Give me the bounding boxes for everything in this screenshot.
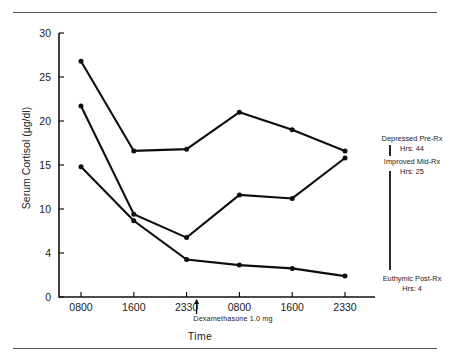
y-tick-label: 20 (39, 115, 51, 127)
data-point-marker (131, 218, 136, 223)
legend-label-improved-mid-rx: Improved Mid-Rx (384, 157, 440, 166)
y-axis-ticks: 302520151040 (39, 27, 64, 303)
data-point-marker (343, 155, 348, 160)
x-tick-label: 0800 (228, 301, 252, 313)
data-point-marker (131, 148, 136, 153)
series-line-0 (81, 61, 345, 151)
legend-entry-improved-mid-rx: Improved Mid-Rx Hrs: 25 (366, 157, 458, 177)
data-point-marker (343, 148, 348, 153)
legend-hrs-euthymic-post-rx: Hrs: 4 (366, 284, 458, 294)
legend-label-depressed-pre-rx: Depressed Pre-Rx (382, 134, 443, 143)
legend-hrs-depressed-pre-rx: Hrs: 44 (366, 144, 458, 154)
data-point-marker (184, 147, 189, 152)
y-tick-label: 30 (39, 27, 51, 39)
y-tick-label: 10 (39, 203, 51, 215)
y-tick-label: 0 (45, 291, 51, 303)
y-tick-label: 15 (39, 159, 51, 171)
data-point-marker (131, 212, 136, 217)
series-line-2 (81, 167, 345, 276)
figure-container: 302520151040 080016002330080016002330 Se… (0, 0, 461, 361)
dexamethasone-annotation-label: Dexamethasone 1.0 mg (158, 314, 308, 323)
data-point-marker (237, 110, 242, 115)
data-point-marker (290, 266, 295, 271)
line-chart-plot: 302520151040 080016002330080016002330 (0, 0, 461, 361)
legend-label-euthymic-post-rx: Euthymic Post-Rx (383, 274, 442, 283)
data-point-marker (79, 59, 84, 64)
data-point-marker (79, 164, 84, 169)
y-tick-label: 25 (39, 71, 51, 83)
data-point-marker (290, 196, 295, 201)
data-point-marker (184, 257, 189, 262)
x-tick-label: 0800 (69, 301, 93, 313)
data-point-marker (343, 274, 348, 279)
y-tick-label: 4 (45, 247, 51, 259)
data-point-marker (290, 127, 295, 132)
x-tick-label: 1600 (122, 301, 146, 313)
x-tick-label: 2330 (333, 301, 357, 313)
data-point-marker (79, 104, 84, 109)
y-axis-label: Serum Cortisol (µg/dl) (20, 88, 32, 228)
legend-hrs-improved-mid-rx: Hrs: 25 (366, 167, 458, 177)
data-point-marker (237, 192, 242, 197)
x-axis-label: Time (0, 330, 400, 342)
data-point-marker (184, 235, 189, 240)
chart-series (79, 59, 348, 279)
data-point-marker (237, 263, 242, 268)
x-axis-ticks: 080016002330080016002330 (69, 292, 357, 313)
legend-entry-euthymic-post-rx: Euthymic Post-Rx Hrs: 4 (366, 274, 458, 294)
series-line-1 (81, 106, 345, 238)
legend-entry-depressed-pre-rx: Depressed Pre-Rx Hrs: 44 (366, 134, 458, 154)
chart-axes (59, 33, 375, 297)
x-tick-label: 1600 (281, 301, 305, 313)
